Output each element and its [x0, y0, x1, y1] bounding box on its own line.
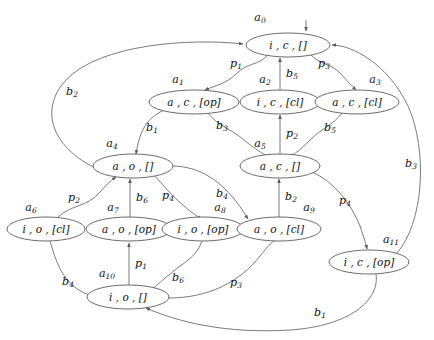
edge-label: p3	[230, 276, 242, 290]
edge-label: p1	[230, 57, 242, 71]
node-name-label: a10	[99, 267, 115, 281]
graph-edge: b3	[332, 45, 421, 254]
node-state-label: a , c , []	[260, 160, 301, 172]
graph-edge: b2	[279, 179, 297, 217]
edge-label-subscript: 4	[222, 192, 228, 201]
node-name-subscript: 6	[32, 206, 37, 215]
edge-label: p2	[286, 127, 298, 141]
node-state-label: a , c , [cl]	[332, 96, 383, 108]
node-name-label: a2	[259, 73, 271, 87]
node-name-subscript: 1	[179, 78, 184, 87]
node-name-label: a9	[303, 201, 315, 215]
node-name-subscript: 2	[265, 78, 271, 87]
node-name-subscript: 8	[221, 206, 226, 215]
graph-node-a8[interactable]: i , o , [op]a8	[162, 201, 244, 241]
edge-label: p3	[318, 57, 330, 71]
node-name-subscript: 9	[310, 206, 315, 215]
edge-label: b3	[405, 157, 417, 171]
diagram-canvas: p1b5p3b1b3p2b5b2b3p2b6p4b4b2p4p1b6b4p3b1…	[0, 0, 434, 340]
node-state-label: a , c , [op]	[167, 96, 221, 108]
edge-label-subscript: 4	[168, 194, 174, 203]
node-name-label: a7	[107, 201, 119, 215]
edge-label-subscript: 6	[143, 196, 148, 205]
graph-edge: p2	[280, 115, 298, 154]
edge-label-subscript: 1	[142, 262, 147, 271]
graph-edge: p3	[311, 55, 356, 90]
graph-node-a7[interactable]: a , o , [op]a7	[86, 201, 172, 241]
edge-label-subscript: 3	[412, 162, 417, 171]
edge-label-subscript: 1	[153, 126, 158, 135]
edge-label: b5	[324, 121, 336, 135]
edge-label: b5	[286, 67, 298, 81]
node-name-subscript: 0	[261, 16, 266, 25]
node-state-label: a , o , [cl]	[254, 223, 305, 235]
node-state-label: i , o , []	[109, 291, 148, 303]
node-name-label: a8	[214, 201, 226, 215]
node-state-label: i , o , [op]	[178, 223, 230, 235]
graph-edge: b5	[280, 58, 298, 90]
node-name-label: a1	[172, 73, 183, 87]
edge-label: b3	[216, 119, 228, 133]
edge-label-subscript: 3	[223, 124, 228, 133]
node-name-subscript: 10	[106, 272, 116, 281]
edge-path	[172, 166, 248, 219]
edge-label-subscript: 5	[293, 72, 298, 81]
graph-edge: p4	[312, 172, 367, 249]
node-name-label: a4	[106, 137, 118, 151]
graph-edge: p4	[153, 174, 202, 219]
graph-node-a1[interactable]: a , c , [op]a1	[149, 73, 239, 114]
edge-label: b4	[62, 275, 74, 289]
node-name-subscript: 11	[390, 238, 400, 247]
edge-label-subscript: 2	[292, 132, 298, 141]
edge-label: b6	[136, 191, 148, 205]
edge-label: b1	[146, 121, 158, 135]
node-name-subscript: 3	[376, 78, 381, 87]
graph-node-a6[interactable]: i , o , [cl]a6	[7, 201, 85, 241]
edge-label-subscript: 5	[331, 126, 336, 135]
node-name-label: a5	[254, 137, 266, 151]
nodes-layer: i , c , []a0a , c , [op]a1i , c , [cl]a2…	[7, 11, 409, 309]
edge-label: p2	[68, 191, 80, 205]
graph-node-a3[interactable]: a , c , [cl]a3	[315, 73, 399, 114]
graph-edge: b6	[150, 241, 202, 291]
graph-edge: b3	[208, 113, 272, 158]
edge-label-subscript: 2	[291, 195, 297, 204]
node-state-label: i , c , []	[269, 39, 307, 51]
graph-edge: b1	[136, 110, 164, 154]
node-state-label: i , c , [op]	[344, 256, 395, 268]
node-name-subscript: 4	[112, 142, 118, 151]
edge-label-subscript: 3	[325, 62, 330, 71]
edge-label-subscript: 1	[321, 311, 326, 320]
edge-label-subscript: 4	[345, 199, 351, 208]
edge-label-subscript: 2	[72, 90, 78, 99]
node-name-subscript: 5	[261, 142, 266, 151]
edge-label: b6	[172, 271, 184, 285]
state-transition-graph: p1b5p3b1b3p2b5b2b3p2b6p4b4b2p4p1b6b4p3b1…	[0, 0, 434, 340]
edge-label: b4	[216, 187, 228, 201]
node-state-label: a , o , []	[113, 160, 155, 172]
edge-label-subscript: 1	[237, 62, 242, 71]
edge-label-subscript: 6	[179, 276, 184, 285]
edge-label: p4	[162, 189, 174, 203]
graph-node-a4[interactable]: a , o , []a4	[93, 137, 173, 178]
edge-label-subscript: 3	[237, 281, 242, 290]
edge-path	[169, 238, 277, 298]
edge-path	[312, 172, 367, 249]
edge-label: b1	[314, 306, 326, 320]
node-state-label: i , o , [cl]	[22, 223, 70, 235]
edge-path	[153, 174, 202, 219]
node-state-label: i , c , [cl]	[257, 96, 305, 108]
graph-node-a0[interactable]: i , c , []a0	[246, 11, 330, 57]
node-name-subscript: 7	[114, 206, 119, 215]
node-name-label: a6	[25, 201, 37, 215]
graph-edge: b6	[130, 179, 148, 217]
edges-layer: p1b5p3b1b3p2b5b2b3p2b6p4b4b2p4p1b6b4p3b1	[50, 20, 421, 331]
graph-node-a10[interactable]: i , o , []a10	[87, 267, 169, 309]
node-name-label: a11	[383, 233, 399, 247]
node-name-label: a0	[254, 11, 266, 25]
edge-label-subscript: 2	[74, 196, 80, 205]
graph-edge: p1	[129, 243, 147, 285]
graph-node-a11[interactable]: i , c , [op]a11	[329, 233, 409, 274]
edge-label: p4	[339, 194, 351, 208]
edge-label-subscript: 4	[68, 280, 74, 289]
